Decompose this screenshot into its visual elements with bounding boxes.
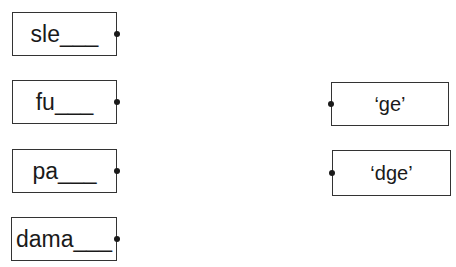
ending-label: ‘ge’	[374, 94, 405, 114]
connector-dot[interactable]	[114, 99, 120, 105]
ending-box-dge[interactable]: ‘dge’	[332, 150, 451, 196]
word-stem-label: dama___	[16, 228, 112, 251]
word-stem-box-dama[interactable]: dama___	[11, 217, 117, 261]
connector-dot[interactable]	[114, 31, 120, 37]
connector-dot[interactable]	[328, 101, 334, 107]
connector-dot[interactable]	[114, 236, 120, 242]
word-stem-box-sle[interactable]: sle___	[12, 12, 117, 56]
connector-dot[interactable]	[114, 168, 120, 174]
connector-dot[interactable]	[329, 170, 335, 176]
word-stem-label: sle___	[31, 23, 99, 46]
word-stem-label: pa___	[33, 160, 97, 183]
word-stem-box-fu[interactable]: fu___	[12, 80, 117, 124]
ending-label: ‘dge’	[370, 163, 412, 183]
word-stem-label: fu___	[36, 91, 94, 114]
ending-box-ge[interactable]: ‘ge’	[331, 82, 449, 126]
word-stem-box-pa[interactable]: pa___	[12, 149, 117, 193]
